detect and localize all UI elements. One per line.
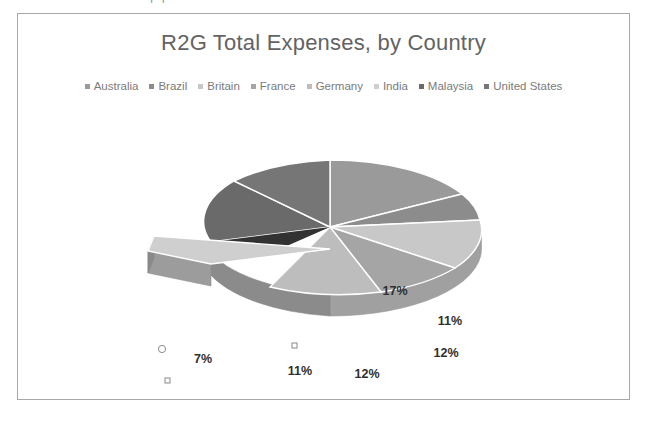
legend-swatch-icon (198, 84, 203, 89)
data-label-germany: 11% (288, 364, 312, 378)
legend-swatch-icon (149, 84, 154, 89)
pie-slices[interactable] (204, 160, 482, 295)
pie-plot-area[interactable]: 17% 11% 12% 12% 11% 7% (18, 110, 631, 400)
legend-swatch-icon (307, 84, 312, 89)
legend-item-label: Brazil (158, 80, 187, 92)
legend-item-label: France (260, 80, 296, 92)
chart-frame[interactable]: R2G Total Expenses, by Country Australia… (17, 13, 630, 400)
legend-item-label: United States (493, 80, 562, 92)
legend-item-label: Britain (207, 80, 240, 92)
data-label-brazil: 11% (438, 314, 462, 328)
selection-handle-square-right[interactable] (292, 343, 297, 348)
selection-handles[interactable] (158, 343, 297, 383)
legend-item-brazil[interactable]: Brazil (149, 80, 187, 92)
legend-swatch-icon (85, 84, 90, 89)
data-label-britain: 12% (433, 346, 458, 360)
legend-item-label: Australia (94, 80, 139, 92)
legend-item-india[interactable]: India (374, 80, 408, 92)
legend-item-germany[interactable]: Germany (307, 80, 363, 92)
legend-swatch-icon (374, 84, 379, 89)
cut-off-text-strip: p p (0, 0, 657, 11)
cut-off-text: p p (150, 0, 169, 3)
pie-chart-svg[interactable]: 17% 11% 12% 12% 11% 7% (18, 110, 631, 400)
data-label-australia: 17% (382, 284, 407, 298)
legend-item-malaysia[interactable]: Malaysia (419, 80, 473, 92)
legend-item-france[interactable]: France (251, 80, 296, 92)
legend-item-label: Germany (316, 80, 363, 92)
selection-handle-square-bottom[interactable] (165, 378, 170, 383)
chart-legend[interactable]: Australia Brazil Britain France Germany … (18, 80, 629, 92)
data-label-france: 12% (354, 367, 379, 381)
chart-title[interactable]: R2G Total Expenses, by Country (18, 30, 629, 56)
legend-item-label: India (383, 80, 408, 92)
selection-handle-circle[interactable] (158, 345, 165, 352)
legend-swatch-icon (419, 84, 424, 89)
data-label-india: 7% (194, 352, 212, 366)
legend-item-australia[interactable]: Australia (85, 80, 139, 92)
legend-swatch-icon (251, 84, 256, 89)
legend-swatch-icon (484, 84, 489, 89)
legend-item-united-states[interactable]: United States (484, 80, 562, 92)
legend-item-label: Malaysia (428, 80, 473, 92)
legend-item-britain[interactable]: Britain (198, 80, 240, 92)
